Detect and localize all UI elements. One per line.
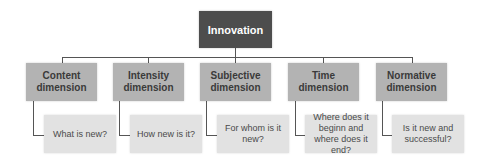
root-stem-line — [235, 48, 236, 57]
time-question-node: Where does it beginn and where does it e… — [305, 115, 377, 153]
question-text: How new is it? — [137, 129, 195, 140]
normative-dimension-node: Normative dimension — [376, 63, 447, 101]
elbow-intensity-v — [119, 101, 120, 135]
horizontal-bus-line — [62, 57, 413, 58]
dimension-label: Content dimension — [26, 70, 97, 94]
intensity-question-node: How new is it? — [130, 115, 202, 153]
elbow-subjective-v — [206, 101, 207, 135]
question-text: What is new? — [53, 129, 107, 140]
elbow-intensity-h — [119, 135, 130, 136]
question-text: Where does it beginn and where does it e… — [309, 112, 373, 156]
dimension-label: Normative dimension — [376, 70, 447, 94]
question-text: Is it new and successful? — [396, 123, 460, 145]
elbow-subjective-h — [206, 135, 217, 136]
elbow-time-v — [295, 101, 296, 135]
root-label: Innovation — [208, 24, 264, 36]
dimension-label: Intensity dimension — [113, 70, 184, 94]
elbow-normative-h — [382, 135, 392, 136]
question-text: For whom is it new? — [221, 123, 285, 145]
intensity-dimension-node: Intensity dimension — [113, 63, 184, 101]
elbow-content-h — [33, 135, 44, 136]
content-question-node: What is new? — [44, 115, 116, 153]
elbow-time-h — [295, 135, 305, 136]
dimension-label: Time dimension — [288, 70, 359, 94]
dimension-label: Subjective dimension — [200, 70, 271, 94]
elbow-content-v — [33, 101, 34, 135]
innovation-root-node: Innovation — [199, 11, 272, 48]
elbow-normative-v — [382, 101, 383, 135]
subjective-question-node: For whom is it new? — [217, 115, 289, 153]
content-dimension-node: Content dimension — [26, 63, 97, 101]
subjective-dimension-node: Subjective dimension — [200, 63, 271, 101]
time-dimension-node: Time dimension — [288, 63, 359, 101]
normative-question-node: Is it new and successful? — [392, 115, 464, 153]
